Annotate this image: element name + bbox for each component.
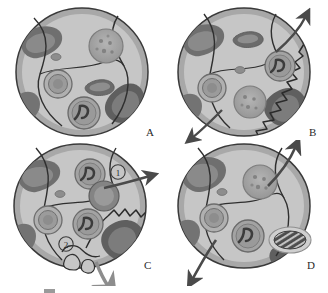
panel-label-b: B: [309, 126, 317, 138]
concentric-ring-vesicle: [198, 74, 226, 102]
stippled-granular-body: [234, 86, 266, 118]
small-oval-granule: [235, 67, 245, 74]
small-oval-granule: [51, 54, 61, 61]
stippled-granular-body: [89, 29, 123, 63]
cell-body-c: 1 2: [9, 144, 150, 286]
svg-text:1: 1: [116, 168, 121, 178]
panel-label-c: C: [144, 259, 152, 271]
panel-c: 1 2: [0, 140, 164, 286]
cell-body-d: [173, 144, 311, 280]
panel-d: [164, 140, 328, 286]
caption-swatch: [44, 289, 55, 293]
panel-label-d: D: [307, 259, 315, 271]
figure-cell-series: 1 2: [0, 0, 328, 293]
concentric-ring-vesicle: [34, 206, 62, 234]
svg-text:2: 2: [64, 240, 69, 250]
panel-b: [164, 0, 328, 146]
concentric-ring-vesicle: [44, 70, 72, 98]
small-oval-granule: [217, 189, 227, 196]
striated-oval-body: [269, 227, 311, 253]
figure-caption: [44, 285, 304, 293]
branched-inclusion-body: [232, 220, 264, 252]
panel-label-a: A: [146, 126, 154, 138]
cell-body-b: [175, 8, 310, 138]
small-oval-granule: [55, 191, 65, 198]
concentric-ring-vesicle: [200, 204, 228, 232]
efflux-arrow-down: [96, 262, 108, 286]
branched-inclusion-body: [265, 51, 295, 81]
branched-inclusion-body: [68, 97, 100, 129]
panel-a: [0, 0, 164, 146]
cell-body-a: [13, 8, 148, 136]
branched-inclusion-body-lower: [73, 209, 103, 239]
